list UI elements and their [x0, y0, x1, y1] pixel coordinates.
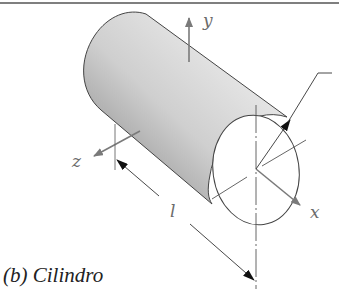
- radius-leader-line: [288, 73, 332, 122]
- length-label: l: [170, 201, 175, 221]
- cylinder-diagram: y z x l (b) Cilindro: [0, 0, 339, 289]
- y-axis-label: y: [202, 10, 213, 30]
- length-arrow-back: [117, 160, 159, 196]
- x-axis-label: x: [310, 202, 320, 222]
- z-axis-arrow: [94, 131, 140, 156]
- figure-caption: (b) Cilindro: [3, 263, 103, 287]
- length-arrow-front: [190, 224, 254, 280]
- z-axis-label: z: [71, 151, 82, 171]
